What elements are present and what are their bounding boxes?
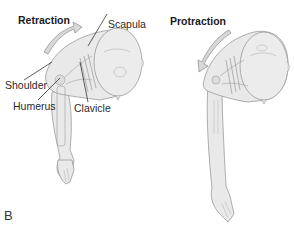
humerus-label: Humerus — [13, 100, 56, 112]
shoulder-motion-figure: Retraction Scapula Shoulder Humerus Clav… — [0, 0, 294, 228]
figure-artwork — [0, 0, 294, 228]
protraction-arm — [207, 86, 234, 222]
protraction-figure — [198, 30, 289, 222]
protraction-title: Protraction — [170, 15, 226, 27]
shoulder-label: Shoulder — [5, 79, 47, 91]
clavicle-label: Clavicle — [74, 102, 111, 114]
retraction-title: Retraction — [18, 14, 70, 26]
scapula-label: Scapula — [108, 18, 146, 30]
retraction-head — [94, 28, 142, 96]
protraction-head — [240, 32, 288, 100]
panel-label: B — [4, 208, 13, 223]
